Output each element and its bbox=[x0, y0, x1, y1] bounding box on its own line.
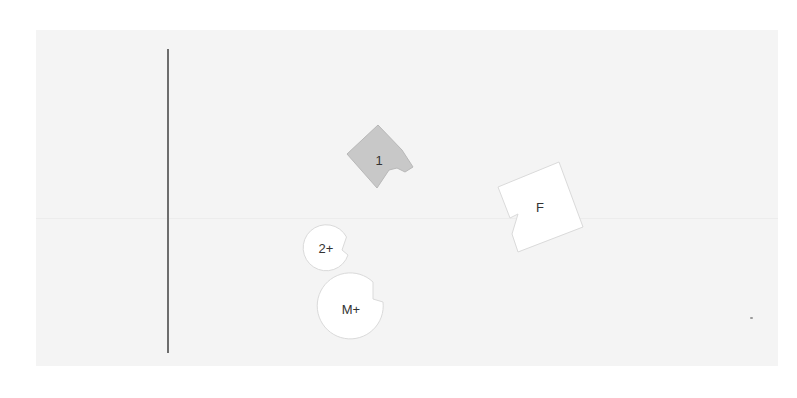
piece-label: 1 bbox=[375, 153, 382, 168]
canvas-panel bbox=[36, 30, 778, 366]
piece-1[interactable]: 1 bbox=[345, 124, 415, 192]
piece-label: M+ bbox=[342, 302, 360, 317]
piece-f[interactable]: F bbox=[496, 160, 588, 254]
piece-mplus[interactable]: M+ bbox=[318, 272, 386, 342]
piece-label: 2+ bbox=[319, 241, 334, 256]
stray-mark bbox=[750, 317, 753, 319]
piece-2plus[interactable]: 2+ bbox=[302, 222, 352, 272]
piece-label: F bbox=[536, 200, 544, 215]
faint-horizontal-guide bbox=[36, 218, 778, 219]
vertical-divider-line bbox=[167, 49, 169, 353]
